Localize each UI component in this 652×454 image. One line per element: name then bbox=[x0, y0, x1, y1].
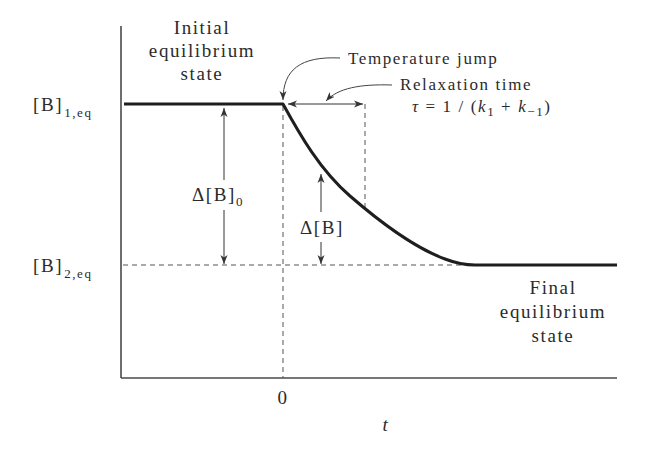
initial-state-label: Initial equilibrium state bbox=[149, 17, 255, 84]
svg-text:Final: Final bbox=[529, 277, 576, 298]
svg-text:equilibrium: equilibrium bbox=[149, 40, 255, 61]
final-state-label: Final equilibrium state bbox=[500, 277, 606, 346]
relaxation-time-formula: τ = 1 / (k1 + k−1) bbox=[412, 97, 552, 119]
svg-text:equilibrium: equilibrium bbox=[500, 301, 606, 322]
svg-text:Initial: Initial bbox=[174, 17, 231, 38]
temperature-jump-pointer bbox=[283, 58, 340, 100]
y-label-final: [B]2,eq bbox=[33, 255, 93, 281]
relaxation-time-pointer bbox=[326, 85, 392, 101]
x-axis-label-t: t bbox=[383, 414, 390, 435]
relaxation-time-label: Relaxation time bbox=[400, 75, 532, 94]
y-label-initial: [B]1,eq bbox=[33, 94, 93, 120]
reference-lines bbox=[123, 104, 470, 378]
t-jump-diagram: [B]1,eq [B]2,eq 0 t Initial equilibrium … bbox=[0, 0, 652, 454]
delta-b0-label: Δ[B]0 bbox=[192, 184, 244, 209]
delta-b-label: Δ[B] bbox=[300, 217, 344, 238]
svg-text:state: state bbox=[532, 325, 575, 346]
temperature-jump-label: Temperature jump bbox=[348, 49, 498, 68]
svg-text:state: state bbox=[181, 63, 224, 84]
x-tick-zero: 0 bbox=[277, 387, 288, 408]
